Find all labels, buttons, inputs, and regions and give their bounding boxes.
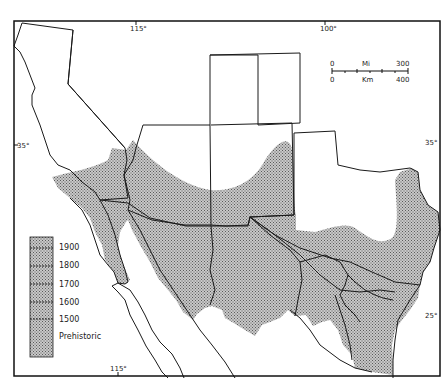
scale-km-max: 400 [396, 76, 409, 84]
scale-mi-max: 300 [396, 60, 409, 68]
scale-mi-unit: Mi [362, 60, 370, 68]
scale-km-zero: 0 [330, 76, 334, 84]
legend-item-1700: 1700 [59, 280, 79, 289]
label-35-left: 35° [17, 142, 29, 150]
legend-item-1900: 1900 [59, 243, 79, 252]
legend-item-1500: 1500 [59, 315, 79, 324]
range-map: 115° 100° 35° 35° 25° 115° 0 Mi 300 0 Km… [0, 0, 448, 382]
legend: 1900 1800 1700 1600 1500 Prehistoric [30, 237, 101, 357]
label-115-top: 115° [130, 25, 147, 33]
legend-item-1600: 1600 [59, 298, 79, 307]
label-35-right: 35° [425, 139, 437, 147]
colorado-outline [210, 53, 300, 125]
distribution-area [52, 140, 440, 375]
legend-item-1800: 1800 [59, 261, 79, 270]
scale-mi-zero: 0 [330, 60, 334, 68]
label-25-right: 25° [425, 312, 437, 320]
utah-colorado-outline [210, 55, 258, 125]
scale-bar: 0 Mi 300 0 Km 400 [330, 60, 409, 84]
label-115-bottom: 115° [110, 365, 127, 373]
nevada-outline [68, 30, 125, 148]
legend-item-prehistoric: Prehistoric [59, 332, 101, 341]
label-100-top: 100° [320, 25, 337, 33]
scale-km-unit: Km [362, 76, 374, 84]
baja-west-outline [112, 283, 168, 378]
